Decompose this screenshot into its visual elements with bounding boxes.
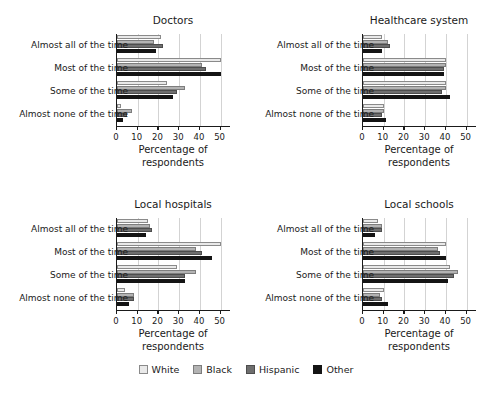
x-tick-label: 40 <box>190 316 208 326</box>
chart-panel-healthcare-system: Healthcare system Almost all of the time… <box>246 8 492 193</box>
category-label: Almost none of the time <box>262 109 374 119</box>
x-tick-label: 20 <box>148 132 166 142</box>
x-axis-tick <box>362 126 363 130</box>
category-label: Almost none of the time <box>262 293 374 303</box>
x-axis-tick <box>178 126 179 130</box>
chart-panel-doctors: Doctors Almost all of the timeMost of th… <box>0 8 246 193</box>
category-label: Almost none of the time <box>16 293 128 303</box>
x-tick-label: 10 <box>128 132 146 142</box>
x-tick-label: 10 <box>128 316 146 326</box>
x-axis-tick <box>403 310 404 314</box>
bar-group <box>363 265 476 288</box>
plot-area <box>362 34 476 126</box>
x-axis-tick <box>157 310 158 314</box>
bar-group <box>363 104 476 127</box>
x-tick-label: 50 <box>457 316 475 326</box>
bar <box>363 86 446 90</box>
category-label: Almost all of the time <box>16 224 128 234</box>
x-tick-label: 30 <box>415 316 433 326</box>
bar <box>117 265 177 269</box>
legend-item[interactable]: White <box>139 364 180 375</box>
x-tick-label: 20 <box>394 316 412 326</box>
panel-title: Healthcare system <box>362 14 476 26</box>
bar <box>363 256 446 260</box>
x-axis-title: Percentage of respondents <box>362 144 476 169</box>
bar <box>117 72 221 76</box>
plot-area <box>116 218 230 310</box>
category-label: Almost all of the time <box>262 40 374 50</box>
category-label: Most of the time <box>16 247 128 257</box>
bar <box>117 247 196 251</box>
figure: Doctors Almost all of the timeMost of th… <box>0 0 492 398</box>
bar-group <box>117 35 230 58</box>
x-axis-title-line1: Percentage of <box>116 328 230 341</box>
x-axis-tick <box>137 310 138 314</box>
panel-title: Doctors <box>116 14 230 26</box>
x-axis-tick <box>466 126 467 130</box>
bar-group <box>363 58 476 81</box>
x-axis-tick <box>403 126 404 130</box>
x-axis-title-line1: Percentage of <box>362 144 476 157</box>
bar <box>363 67 444 71</box>
bar <box>363 279 448 283</box>
x-axis-title-line1: Percentage of <box>116 144 230 157</box>
bar-group <box>363 242 476 265</box>
legend-label: Hispanic <box>259 364 299 375</box>
chart-legend: WhiteBlackHispanicOther <box>0 364 492 375</box>
x-tick-label: 10 <box>374 132 392 142</box>
x-axis-tick <box>383 126 384 130</box>
x-tick-label: 40 <box>436 132 454 142</box>
bar-group <box>363 288 476 311</box>
plot-area <box>116 34 230 126</box>
x-tick-label: 30 <box>415 132 433 142</box>
x-axis-title: Percentage of respondents <box>116 328 230 353</box>
x-axis-tick <box>466 310 467 314</box>
x-axis-tick <box>362 310 363 314</box>
bar <box>117 104 121 108</box>
legend-item[interactable]: Black <box>193 364 232 375</box>
legend-label: Black <box>206 364 232 375</box>
bar-group <box>117 219 230 242</box>
x-axis-tick <box>445 310 446 314</box>
x-tick-label: 40 <box>436 316 454 326</box>
bar <box>363 81 446 85</box>
category-label: Some of the time <box>16 270 128 280</box>
x-axis-title: Percentage of respondents <box>116 144 230 169</box>
bar <box>363 265 450 269</box>
panel-title: Local schools <box>362 198 476 210</box>
category-label: Almost all of the time <box>262 224 374 234</box>
bar-group <box>117 265 230 288</box>
legend-swatch-icon <box>193 365 202 374</box>
x-tick-label: 30 <box>169 316 187 326</box>
legend-swatch-icon <box>313 365 322 374</box>
legend-label: Other <box>326 364 353 375</box>
x-tick-label: 0 <box>353 316 371 326</box>
x-axis <box>362 126 476 127</box>
x-tick-label: 0 <box>353 132 371 142</box>
x-tick-label: 0 <box>107 316 125 326</box>
bar <box>117 63 202 67</box>
category-label: Almost none of the time <box>16 109 128 119</box>
bar-group <box>117 58 230 81</box>
bar <box>117 35 161 39</box>
x-axis-tick <box>157 126 158 130</box>
x-tick-label: 30 <box>169 132 187 142</box>
x-axis-title-line1: Percentage of <box>362 328 476 341</box>
x-axis-tick <box>424 126 425 130</box>
x-axis <box>362 310 476 311</box>
category-label: Most of the time <box>16 63 128 73</box>
bar <box>363 247 438 251</box>
bar <box>363 72 444 76</box>
bar <box>117 270 196 274</box>
legend-item[interactable]: Hispanic <box>246 364 299 375</box>
bar <box>363 270 458 274</box>
bar <box>117 251 202 255</box>
x-tick-label: 50 <box>211 316 229 326</box>
x-tick-label: 10 <box>374 316 392 326</box>
bar <box>363 58 446 62</box>
x-axis-title-line2: respondents <box>362 157 476 170</box>
legend-item[interactable]: Other <box>313 364 353 375</box>
x-axis-title-line2: respondents <box>362 341 476 354</box>
bar-group <box>117 288 230 311</box>
bar <box>117 242 221 246</box>
